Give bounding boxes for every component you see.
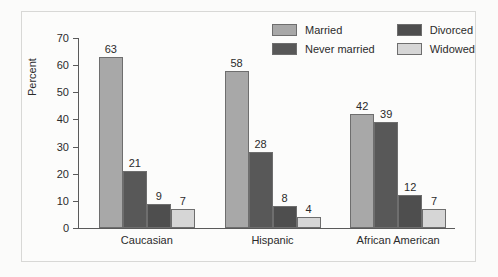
bar-value-label: 58: [230, 57, 242, 70]
plot-area: 010203040506070 6321975828844239127 Cauc…: [78, 38, 455, 228]
y-tick-mark: [73, 65, 78, 66]
bar: 39: [374, 122, 398, 228]
y-tick-mark: [73, 174, 78, 175]
bar: 58: [225, 71, 249, 228]
y-tick-label: 40: [57, 111, 69, 127]
legend-item: Widowed: [397, 43, 475, 55]
bar: 4: [297, 217, 321, 228]
category-label: African American: [357, 234, 440, 246]
bar: 8: [273, 206, 297, 228]
legend-swatch: [397, 24, 422, 36]
figure: Percent 010203040506070 6321975828844239…: [0, 0, 498, 277]
bar: 42: [350, 114, 374, 228]
y-tick-mark: [73, 201, 78, 202]
bar-value-label: 4: [305, 203, 311, 216]
bar-value-label: 7: [431, 195, 437, 208]
legend-label: Widowed: [430, 43, 475, 55]
bar-value-label: 28: [254, 138, 266, 151]
x-axis-line: [78, 228, 455, 229]
legend-swatch: [272, 24, 297, 36]
bar-value-label: 42: [356, 100, 368, 113]
legend-label: Never married: [305, 43, 375, 55]
y-tick-label: 0: [63, 220, 69, 236]
category-label: Caucasian: [121, 234, 173, 246]
bar-value-label: 39: [380, 108, 392, 121]
y-tick-label: 10: [57, 193, 69, 209]
y-tick-mark: [73, 92, 78, 93]
y-tick-label: 20: [57, 166, 69, 182]
legend-swatch: [272, 43, 297, 55]
legend-label: Divorced: [430, 24, 473, 36]
legend-item: Never married: [272, 43, 375, 55]
bar-value-label: 8: [281, 192, 287, 205]
y-tick-mark: [73, 228, 78, 229]
bar: 28: [249, 152, 273, 228]
y-tick-label: 70: [57, 30, 69, 46]
bar: 7: [422, 209, 446, 228]
bar: 21: [123, 171, 147, 228]
y-axis-line: [78, 38, 79, 228]
legend: MarriedDivorcedNever marriedWidowed: [272, 24, 475, 55]
legend-label: Married: [305, 24, 342, 36]
bar-value-label: 21: [129, 157, 141, 170]
y-tick-label: 50: [57, 84, 69, 100]
legend-item: Divorced: [397, 24, 475, 36]
legend-item: Married: [272, 24, 375, 36]
bar-value-label: 9: [156, 190, 162, 203]
bar: 63: [99, 57, 123, 228]
bar: 12: [398, 195, 422, 228]
legend-swatch: [397, 43, 422, 55]
bar: 9: [147, 204, 171, 228]
bar-value-label: 63: [105, 43, 117, 56]
y-tick-mark: [73, 38, 78, 39]
bar-value-label: 7: [180, 195, 186, 208]
bar-value-label: 12: [404, 181, 416, 194]
y-tick-mark: [73, 147, 78, 148]
category-label: Hispanic: [251, 234, 293, 246]
y-tick-label: 30: [57, 139, 69, 155]
y-tick-mark: [73, 119, 78, 120]
y-tick-label: 60: [57, 57, 69, 73]
y-axis-label: Percent: [26, 58, 38, 96]
bar: 7: [171, 209, 195, 228]
